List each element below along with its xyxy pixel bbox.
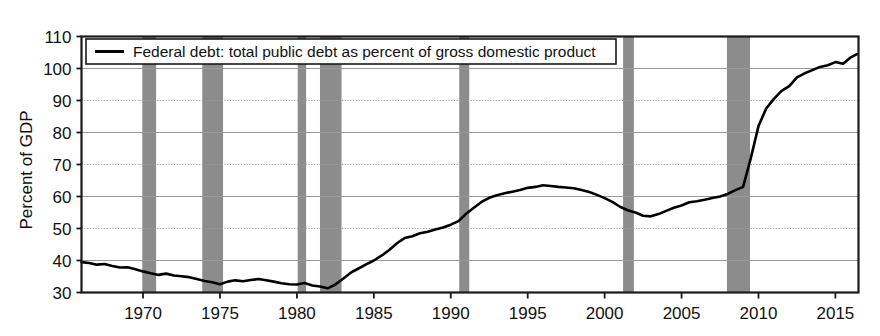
x-axis-tick-label: 1985	[355, 304, 393, 323]
y-axis-tick-label: 100	[43, 60, 71, 79]
y-axis-tick-label: 70	[53, 156, 72, 175]
legend-entry-label: Federal debt: total public debt as perce…	[133, 43, 596, 60]
x-axis-tick-label: 1970	[124, 304, 162, 323]
x-axis-tick-label: 1990	[432, 304, 470, 323]
x-axis-tick-label: 2005	[663, 304, 701, 323]
y-axis-tick-label: 60	[53, 188, 72, 207]
y-axis-tick-label: 40	[53, 252, 72, 271]
recession-band	[459, 37, 469, 293]
x-axis-tick-label: 1980	[278, 304, 316, 323]
x-axis-tick-label: 2000	[586, 304, 624, 323]
x-axis-tick-label: 2010	[740, 304, 778, 323]
chart-legend: Federal debt: total public debt as perce…	[86, 39, 616, 64]
y-axis-title-text: Percent of GDP	[17, 110, 36, 229]
x-axis-tick-label: 1975	[201, 304, 239, 323]
chart-figure: Percent of GDP 30405060708090100110 1970…	[0, 0, 880, 336]
y-axis-tick-label: 110	[44, 28, 71, 47]
x-axis-tick-label: 1995	[509, 304, 547, 323]
y-axis-tick-label: 90	[53, 92, 72, 111]
y-axis-tick-label: 80	[53, 124, 72, 143]
y-axis-title: Percent of GDP	[17, 110, 36, 229]
federal-debt-line-chart: Percent of GDP 30405060708090100110 1970…	[0, 0, 880, 336]
x-axis-tick-label: 2015	[817, 304, 855, 323]
y-axis-tick-label: 30	[53, 284, 72, 303]
recession-band	[727, 37, 750, 293]
recession-band	[298, 37, 306, 293]
y-axis-tick-label: 50	[53, 220, 72, 239]
